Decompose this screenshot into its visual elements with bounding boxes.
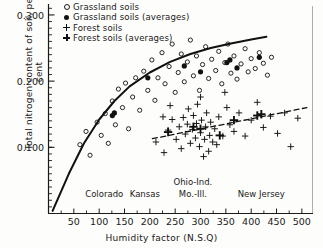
- y-tick-label: 0.100: [2, 142, 44, 153]
- x-axis-title: Humidity factor (N.S.Q): [0, 233, 323, 243]
- x-tick-label: 500: [287, 216, 317, 227]
- legend: Grassland soils Grassland soils (average…: [60, 2, 189, 44]
- open-circle-icon: [60, 2, 73, 12]
- legend-label: Grassland soils (averages): [73, 12, 189, 22]
- legend-item: Grassland soils (averages): [60, 12, 189, 22]
- region-label: Mo.-Ill.: [158, 190, 228, 200]
- region-label: Ohio-Ind.: [158, 178, 228, 188]
- legend-item: Forest soils: [60, 23, 189, 33]
- legend-label: Grassland soils: [73, 2, 139, 12]
- y-tick-label: 0.200: [2, 76, 44, 87]
- figure-nitrogen-vs-humidity: Total nitrogen content of soil, per cent…: [0, 0, 323, 248]
- y-tick-label: 0.300: [2, 10, 44, 21]
- filled-circle-icon: [60, 12, 73, 22]
- region-label: New Jersey: [226, 190, 296, 200]
- legend-label: Forest soils: [73, 23, 122, 33]
- bold-plus-icon: [60, 33, 73, 43]
- legend-item: Forest soils (averages): [60, 33, 189, 43]
- data-points: [78, 38, 301, 160]
- legend-label: Forest soils (averages): [73, 33, 173, 43]
- legend-item: Grassland soils: [60, 2, 189, 12]
- thin-plus-icon: [60, 23, 73, 33]
